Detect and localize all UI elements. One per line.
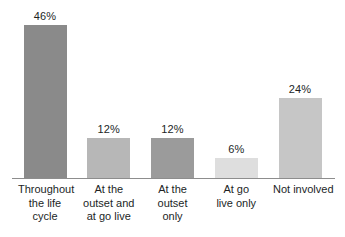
x-label-line: live only (209, 197, 263, 211)
x-axis-labels: Throughoutthe lifecycle At theoutset and… (12, 183, 333, 224)
x-label-line: outset (146, 197, 200, 211)
bars-row: 46% 12% 12% 6% 24% (12, 8, 333, 178)
x-label-line: cycle (18, 210, 72, 224)
bar-group-not-involved[interactable]: 24% (273, 8, 327, 178)
x-label-line: At the (146, 183, 200, 197)
bar-rect[interactable] (215, 158, 258, 178)
x-label-at-the-outset-and-at-go-live: At theoutset andat go live (82, 183, 136, 224)
bar-value-label: 6% (228, 143, 244, 155)
bar-group-at-the-outset-only[interactable]: 12% (146, 8, 200, 178)
bar-group-at-go-live-only[interactable]: 6% (209, 8, 263, 178)
bar-value-label: 12% (98, 123, 120, 135)
x-label-line: At go (209, 183, 263, 197)
x-label-at-go-live-only: At golive only (209, 183, 263, 224)
x-label-line: Throughout (18, 183, 72, 197)
x-label-line: outset and (82, 197, 136, 211)
x-label-line: At the (82, 183, 136, 197)
x-label-line: the life (18, 197, 72, 211)
bar-rect[interactable] (279, 98, 322, 178)
x-label-line: only (146, 210, 200, 224)
x-label-line: at go live (82, 210, 136, 224)
x-axis-line (12, 178, 335, 179)
bar-group-at-the-outset-and-at-go-live[interactable]: 12% (82, 8, 136, 178)
bar-rect[interactable] (87, 138, 130, 178)
bar-group-throughout-the-life-cycle[interactable]: 46% (18, 8, 72, 178)
bar-chart: 46% 12% 12% 6% 24% Throughoutthe li (0, 0, 345, 237)
bar-value-label: 24% (289, 83, 311, 95)
x-label-at-the-outset-only: At theoutsetonly (146, 183, 200, 224)
bar-value-label: 46% (34, 10, 56, 22)
bar-rect[interactable] (151, 138, 194, 178)
x-label-line: Not involved (273, 183, 327, 197)
plot-area: 46% 12% 12% 6% 24% (12, 8, 333, 178)
x-label-throughout-the-life-cycle: Throughoutthe lifecycle (18, 183, 72, 224)
bar-value-label: 12% (161, 123, 183, 135)
x-label-not-involved: Not involved (273, 183, 327, 224)
bar-rect[interactable] (24, 25, 67, 178)
